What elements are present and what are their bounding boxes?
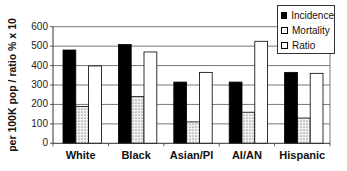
bar-ratio-asianpi — [199, 72, 212, 143]
y-tick-label: 400 — [26, 60, 48, 71]
bars — [63, 41, 323, 143]
legend-item-mortality: Mortality — [281, 23, 334, 38]
x-category-label: Black — [108, 149, 164, 161]
bar-mortality-white — [76, 106, 89, 143]
y-tick-label: 100 — [26, 118, 48, 129]
x-category-label: Asian/PI — [164, 149, 220, 161]
legend-label: Ratio — [292, 40, 315, 51]
x-category-label: AI/AN — [219, 149, 275, 161]
solid-square-icon — [281, 12, 287, 19]
y-tick-label: 600 — [26, 21, 48, 32]
bar-mortality-black — [131, 97, 144, 144]
y-tick-label: 200 — [26, 98, 48, 109]
bar-ratio-black — [144, 52, 157, 143]
y-axis-label-text: per 100K pop / ratio % x 10 — [6, 18, 18, 152]
empty-square-icon — [281, 42, 288, 49]
bar-mortality-aian — [242, 112, 255, 143]
bar-ratio-white — [89, 66, 102, 143]
bar-incidence-hispanic — [285, 72, 298, 143]
x-category-label: Hispanic — [274, 149, 330, 161]
legend-label: Incidence — [291, 10, 334, 21]
bar-mortality-asianpi — [187, 122, 200, 143]
x-category-label: White — [53, 149, 109, 161]
bar-ratio-hispanic — [310, 73, 323, 143]
y-tick-label: 500 — [26, 40, 48, 51]
bar-chart: per 100K pop / ratio % x 10 010020030040… — [0, 0, 347, 171]
y-tick-label: 300 — [26, 79, 48, 90]
y-tick-label: 0 — [26, 137, 48, 148]
bar-incidence-black — [118, 45, 131, 144]
bar-incidence-white — [63, 50, 76, 143]
bar-ratio-aian — [255, 41, 268, 143]
bar-incidence-asianpi — [174, 82, 187, 143]
dotted-square-icon — [281, 27, 288, 34]
y-axis-label: per 100K pop / ratio % x 10 — [2, 20, 22, 150]
legend: Incidence Mortality Ratio — [277, 5, 335, 54]
legend-item-ratio: Ratio — [281, 38, 334, 53]
legend-item-incidence: Incidence — [281, 8, 334, 23]
bar-incidence-aian — [229, 82, 242, 143]
bar-mortality-hispanic — [297, 118, 310, 143]
legend-label: Mortality — [292, 25, 330, 36]
